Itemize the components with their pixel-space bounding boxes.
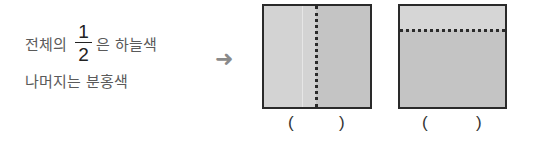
fraction-one-half: 1 2 <box>75 22 92 65</box>
answer-paren-open-1: ( <box>288 113 294 133</box>
statement-line-2: 나머지는 분홍색 <box>25 70 128 91</box>
fraction-numerator: 1 <box>78 22 89 41</box>
top-region <box>400 6 505 30</box>
fraction-denominator: 2 <box>78 45 89 64</box>
horizontal-dotted-divider <box>400 29 505 32</box>
right-arrow-icon: ➜ <box>215 46 233 71</box>
answer-paren-close-2: ) <box>476 113 482 133</box>
answer-paren-close-1: ) <box>339 113 345 133</box>
figure-square-vertical-split[interactable] <box>262 4 372 109</box>
figure-square-horizontal-split[interactable] <box>398 4 507 109</box>
fraction-bar <box>75 42 92 44</box>
scan-artifact-line <box>302 6 303 107</box>
statement-line-1: 전체의 1 2 은 하늘색 <box>25 20 157 66</box>
answer-paren-open-2: ( <box>422 113 428 133</box>
statement-suffix: 은 하늘색 <box>96 33 157 54</box>
statement-prefix: 전체의 <box>25 33 67 54</box>
vertical-dotted-divider <box>315 6 318 107</box>
